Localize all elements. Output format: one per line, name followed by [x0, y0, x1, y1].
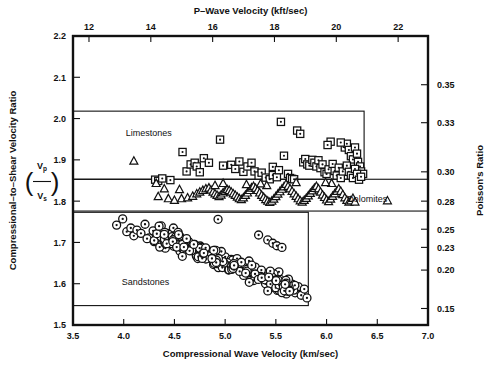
y-tick-label-left: 1.6	[53, 279, 66, 289]
data-point-limestones	[159, 175, 166, 182]
data-point-limestones	[196, 169, 203, 176]
data-point-limestones	[236, 158, 243, 165]
x-tick-label-bottom: 5.0	[219, 331, 232, 341]
data-point-limestones	[232, 165, 239, 172]
y-tick-label-right: 0.30	[437, 167, 455, 177]
data-point-limestones	[183, 168, 190, 175]
x-tick-label-top: 12	[84, 22, 94, 32]
x-tick-label-top: 18	[269, 22, 279, 32]
y-tick-label-left: 2.0	[53, 114, 66, 124]
vp-vs-fraction: VpVs()	[25, 161, 60, 202]
y-tick-label-right: 0.33	[437, 118, 455, 128]
x-tick-label-top: 16	[208, 22, 218, 32]
data-point-sandstones	[208, 254, 216, 262]
data-point-sandstones	[214, 215, 222, 223]
x-tick-label-bottom: 5.5	[270, 331, 283, 341]
y-axis-title-right: Poisson's Ratio	[474, 145, 485, 216]
data-point-sandstones	[180, 243, 188, 251]
data-point-sandstones	[278, 243, 286, 251]
y-tick-label-left: 1.5	[53, 320, 66, 330]
data-point-sandstones	[183, 235, 191, 243]
data-point-sandstones	[248, 261, 256, 269]
group-label-sandstones: Sandstones	[122, 277, 170, 287]
data-point-limestones	[179, 148, 186, 155]
data-point-limestones	[205, 159, 212, 166]
y-tick-label-right: 0.20	[437, 265, 455, 275]
data-point-limestones	[280, 152, 287, 159]
x-tick-label-top: 22	[393, 22, 403, 32]
fraction-paren: )	[51, 167, 60, 197]
data-point-limestones	[220, 162, 227, 169]
data-point-sandstones	[153, 230, 161, 238]
data-point-sandstones	[210, 246, 218, 254]
fraction-paren: (	[25, 167, 34, 197]
y-tick-label-left: 1.8	[53, 197, 66, 207]
y-tick-label-right: 0.28	[437, 197, 455, 207]
y-tick-label-right: 0.23	[437, 243, 455, 253]
data-point-sandstones	[160, 230, 168, 238]
fraction-term: Vp	[37, 161, 47, 173]
data-point-limestones	[357, 173, 364, 180]
y-tick-label-left: 2.2	[53, 31, 66, 41]
y-tick-label-left: 1.9	[53, 155, 66, 165]
data-point-limestones	[277, 118, 284, 125]
data-point-sandstones	[242, 269, 250, 277]
data-point-limestones	[353, 150, 360, 157]
data-point-limestones	[324, 141, 331, 148]
data-point-sandstones	[264, 287, 272, 295]
x-axis-title-top: P–Wave Velocity (kft/sec)	[194, 5, 308, 16]
fraction-term: Vs	[37, 191, 47, 202]
data-point-sandstones	[119, 215, 127, 223]
data-point-sandstones	[155, 222, 163, 230]
y-tick-label-right: 0.15	[437, 304, 455, 314]
data-point-sandstones	[300, 285, 308, 293]
data-point-sandstones	[255, 231, 263, 239]
y-tick-label-left: 2.1	[53, 73, 66, 83]
data-point-sandstones	[200, 249, 208, 257]
scatter-plot: 3.54.04.55.05.56.06.57.0Compressional Wa…	[0, 0, 499, 370]
x-tick-label-bottom: 6.5	[371, 331, 384, 341]
data-point-limestones	[167, 176, 174, 183]
y-tick-label-left: 1.7	[53, 238, 66, 248]
group-label-limestones: Limestones	[126, 128, 173, 138]
data-point-sandstones	[265, 273, 273, 281]
x-tick-label-bottom: 3.5	[67, 331, 80, 341]
data-point-limestones	[275, 167, 282, 174]
x-tick-label-top: 20	[331, 22, 341, 32]
data-point-sandstones	[178, 252, 186, 260]
data-point-sandstones	[303, 294, 311, 302]
data-point-sandstones	[281, 280, 289, 288]
y-tick-label-right: 0.25	[437, 225, 455, 235]
data-point-sandstones	[230, 261, 238, 269]
data-point-limestones	[273, 174, 280, 181]
data-point-limestones	[297, 130, 304, 137]
data-point-sandstones	[141, 220, 149, 228]
data-point-limestones	[216, 136, 223, 143]
group-label-dolomites: Dolomites	[347, 194, 388, 204]
x-axis-title-bottom: Compressional Wave Velocity (km/sec)	[163, 348, 338, 359]
data-point-limestones	[248, 159, 255, 166]
data-point-sandstones	[245, 278, 253, 286]
data-point-limestones	[337, 139, 344, 146]
y-tick-label-right: 0.35	[437, 80, 455, 90]
data-point-sandstones	[175, 231, 183, 239]
x-tick-label-bottom: 4.0	[117, 331, 130, 341]
x-tick-label-top: 14	[146, 22, 156, 32]
data-point-sandstones	[113, 221, 121, 229]
x-tick-label-bottom: 4.5	[168, 331, 181, 341]
figure-root: 3.54.04.55.05.56.06.57.0Compressional Wa…	[0, 0, 499, 370]
y-axis-title-left: Compressional–to–Shear Velocity Ratio	[7, 91, 18, 271]
x-tick-label-bottom: 7.0	[422, 331, 435, 341]
x-tick-label-bottom: 6.0	[320, 331, 333, 341]
data-point-sandstones	[190, 240, 198, 248]
